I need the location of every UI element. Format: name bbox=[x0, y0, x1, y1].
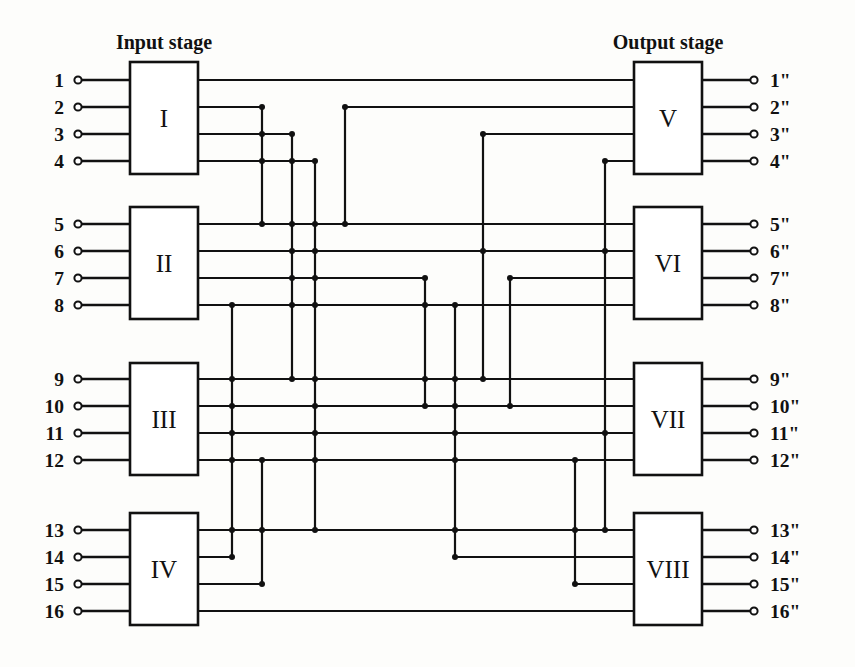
input-terminal-dot[interactable] bbox=[74, 247, 81, 254]
input-terminal-dot[interactable] bbox=[74, 402, 81, 409]
wire-junction-dot bbox=[312, 527, 318, 533]
input-terminal-dot[interactable] bbox=[74, 456, 81, 463]
interconnect-wire bbox=[198, 278, 634, 406]
input-terminal-dot[interactable] bbox=[74, 301, 81, 308]
output-terminal-dot[interactable] bbox=[750, 456, 757, 463]
output-terminal-dot[interactable] bbox=[750, 607, 757, 614]
wire-junction-dot bbox=[229, 457, 235, 463]
output-terminal-label: 2" bbox=[770, 97, 791, 118]
output-terminal-dot[interactable] bbox=[750, 247, 757, 254]
wire-junction-dot bbox=[312, 248, 318, 254]
output-terminal-dot[interactable] bbox=[750, 103, 757, 110]
wire-junction-dot bbox=[229, 527, 235, 533]
output-terminal-label: 6" bbox=[770, 241, 791, 262]
output-terminal-dot[interactable] bbox=[750, 375, 757, 382]
input-switch-label: III bbox=[152, 406, 177, 433]
input-terminal-dot[interactable] bbox=[74, 526, 81, 533]
wire-junction-dot bbox=[342, 221, 348, 227]
output-terminal-dot[interactable] bbox=[750, 553, 757, 560]
input-terminal-label: 12 bbox=[45, 450, 65, 471]
output-switch-label: VII bbox=[651, 406, 686, 433]
input-terminal-label: 16 bbox=[45, 601, 65, 622]
interconnect-wire bbox=[198, 134, 634, 379]
input-terminal-dot[interactable] bbox=[74, 103, 81, 110]
input-terminal-label: 15 bbox=[45, 574, 65, 595]
input-terminal-dot[interactable] bbox=[74, 429, 81, 436]
wire-junction-dot bbox=[480, 248, 486, 254]
input-switch-label: I bbox=[160, 105, 168, 132]
input-terminal-label: 13 bbox=[45, 520, 65, 541]
input-terminal-dot[interactable] bbox=[74, 220, 81, 227]
wire-junction-dot bbox=[289, 248, 295, 254]
wire-junction-dot bbox=[289, 376, 295, 382]
wire-junction-dot bbox=[229, 376, 235, 382]
wire-junction-dot bbox=[342, 104, 348, 110]
wire-junction-dot bbox=[312, 158, 318, 164]
wire-junction-dot bbox=[259, 527, 265, 533]
wire-junction-dot bbox=[572, 527, 578, 533]
input-terminal-dot[interactable] bbox=[74, 130, 81, 137]
input-terminal-dot[interactable] bbox=[74, 607, 81, 614]
wire-junction-dot bbox=[229, 554, 235, 560]
wire-junction-dot bbox=[229, 403, 235, 409]
output-terminal-dot[interactable] bbox=[750, 274, 757, 281]
output-terminal-dot[interactable] bbox=[750, 402, 757, 409]
wire-junction-dot bbox=[452, 554, 458, 560]
interconnect-wire bbox=[198, 460, 634, 584]
input-stage-title: Input stage bbox=[116, 31, 212, 54]
wire-junction-dot bbox=[312, 275, 318, 281]
wire-junction-dot bbox=[289, 131, 295, 137]
input-terminal-dot[interactable] bbox=[74, 76, 81, 83]
interconnect-wire bbox=[198, 107, 634, 224]
input-terminal-label: 4 bbox=[54, 151, 64, 172]
output-terminal-dot[interactable] bbox=[750, 157, 757, 164]
wire-junction-dot bbox=[572, 581, 578, 587]
wire-junction-dot bbox=[452, 457, 458, 463]
output-terminal-dot[interactable] bbox=[750, 76, 757, 83]
wire-junction-dot bbox=[507, 403, 513, 409]
input-terminal-dot[interactable] bbox=[74, 553, 81, 560]
wire-junction-dot bbox=[259, 457, 265, 463]
input-terminal-dot[interactable] bbox=[74, 375, 81, 382]
input-terminal-label: 9 bbox=[54, 369, 64, 390]
output-terminal-label: 7" bbox=[770, 268, 791, 289]
input-terminal-label: 3 bbox=[54, 124, 64, 145]
wire-junction-dot bbox=[452, 403, 458, 409]
wire-junction-dot bbox=[289, 275, 295, 281]
wire-junction-dot bbox=[452, 430, 458, 436]
output-terminal-dot[interactable] bbox=[750, 580, 757, 587]
input-terminal-label: 5 bbox=[54, 214, 64, 235]
input-terminal-label: 2 bbox=[54, 97, 64, 118]
wire-junction-dot bbox=[602, 158, 608, 164]
switch-boxes: IIIIIIIVVVIVIIVIII bbox=[130, 62, 702, 625]
wire-junction-dot bbox=[602, 527, 608, 533]
output-terminal-label: 16" bbox=[770, 601, 800, 622]
wire-junction-dot bbox=[312, 302, 318, 308]
output-terminal-label: 11" bbox=[770, 423, 799, 444]
wire-junction-dot bbox=[602, 248, 608, 254]
output-terminal-label: 1" bbox=[770, 70, 791, 91]
output-terminal-dot[interactable] bbox=[750, 130, 757, 137]
output-terminal-dot[interactable] bbox=[750, 526, 757, 533]
wire-junction-dot bbox=[259, 221, 265, 227]
wire-junction-dot bbox=[312, 403, 318, 409]
wire-junction-dot bbox=[422, 302, 428, 308]
output-terminal-dot[interactable] bbox=[750, 429, 757, 436]
input-switch-label: II bbox=[156, 250, 173, 277]
figure-canvas: Input stage Output stage IIIIIIIVVVIVIIV… bbox=[0, 0, 855, 667]
interconnect-wire bbox=[198, 134, 634, 379]
wire-junction-dot bbox=[452, 527, 458, 533]
output-stage-title: Output stage bbox=[613, 31, 724, 54]
output-terminal-dot[interactable] bbox=[750, 220, 757, 227]
output-terminal-label: 13" bbox=[770, 520, 800, 541]
output-terminal-label: 10" bbox=[770, 396, 800, 417]
output-terminal-label: 5" bbox=[770, 214, 791, 235]
output-terminal-label: 14" bbox=[770, 547, 800, 568]
input-terminal-dot[interactable] bbox=[74, 274, 81, 281]
input-terminal-dot[interactable] bbox=[74, 580, 81, 587]
wire-junction-dot bbox=[480, 376, 486, 382]
output-terminal-dot[interactable] bbox=[750, 301, 757, 308]
input-terminal-dot[interactable] bbox=[74, 157, 81, 164]
interconnect-wire bbox=[198, 107, 634, 224]
wire-junction-dot bbox=[259, 131, 265, 137]
